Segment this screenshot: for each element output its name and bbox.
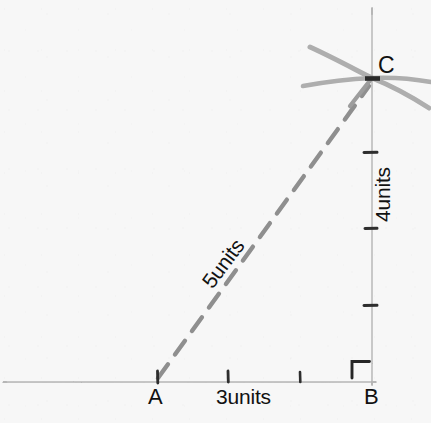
base-line-group	[5, 381, 374, 382]
base-length-label: 3units	[216, 386, 271, 407]
right-angle-marker-at-B	[352, 362, 370, 379]
triangle-diagram-svg	[0, 0, 431, 423]
hypotenuse-path	[158, 86, 369, 378]
figure-canvas: A B C 3units 4units 5units	[0, 0, 431, 423]
right-angle-square	[352, 362, 370, 379]
starburst-stroke-3	[303, 78, 372, 86]
vertex-label-A: A	[148, 386, 163, 408]
starburst-stroke-1	[310, 47, 372, 78]
starburst-marker-at-C	[303, 47, 431, 108]
starburst-stroke-5	[350, 78, 372, 106]
hypotenuse-dashed-line	[158, 86, 369, 378]
vertex-label-B: B	[364, 386, 379, 408]
height-length-label: 4units	[372, 167, 393, 222]
vertex-label-C: C	[378, 54, 395, 77]
